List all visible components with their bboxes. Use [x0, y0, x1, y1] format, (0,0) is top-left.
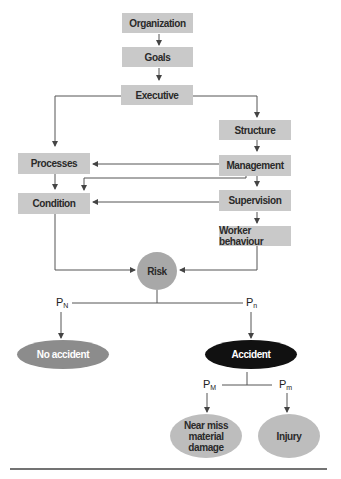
risk-node: Risk	[137, 252, 177, 290]
p-N-label: PN	[56, 296, 68, 309]
p-n-label: Pn	[246, 296, 257, 309]
processes-box: Processes	[18, 153, 90, 174]
executive-box: Executive	[121, 85, 193, 105]
p-m-label: Pm	[279, 378, 292, 391]
accident-node: Accident	[205, 340, 297, 369]
organization-box: Organization	[122, 13, 193, 33]
management-box: Management	[219, 155, 291, 176]
p-M-label: PM	[203, 378, 216, 391]
structure-box: Structure	[219, 120, 291, 140]
worker-behaviour-box: Worker behaviour	[219, 226, 291, 246]
no-accident-node: No accident	[17, 340, 109, 369]
injury-node: Injury	[258, 414, 320, 458]
goals-box: Goals	[122, 47, 193, 67]
supervision-box: Supervision	[219, 190, 291, 211]
near-miss-node: Near miss material damage	[170, 414, 242, 458]
condition-box: Condition	[18, 193, 90, 214]
